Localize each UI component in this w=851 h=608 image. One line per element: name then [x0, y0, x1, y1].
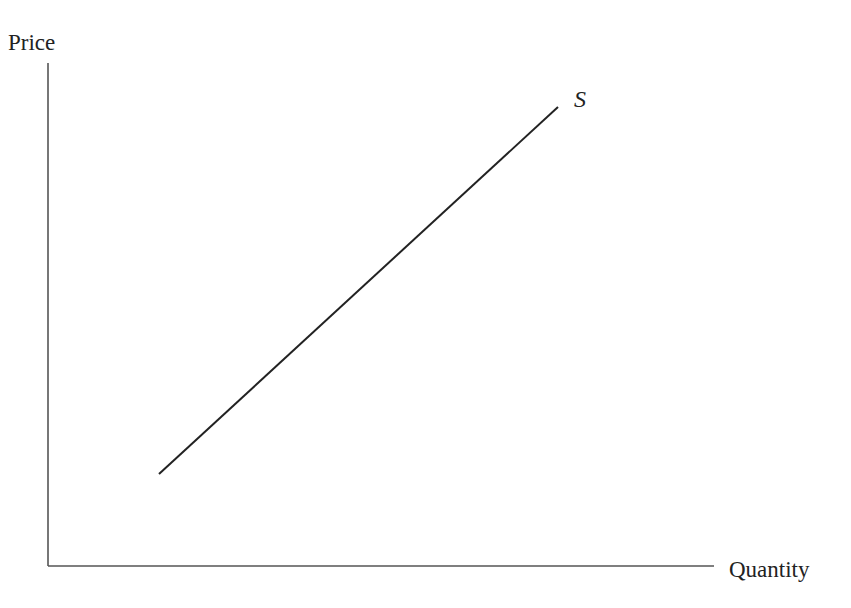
- x-axis-label: Quantity: [729, 558, 810, 581]
- supply-curve: [159, 107, 558, 474]
- plot-area: [0, 0, 851, 608]
- supply-curve-label: S: [574, 87, 586, 111]
